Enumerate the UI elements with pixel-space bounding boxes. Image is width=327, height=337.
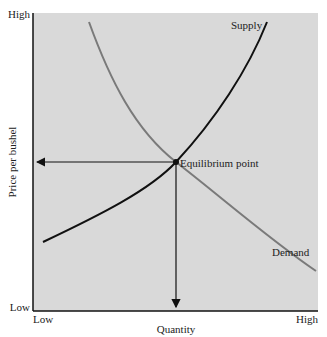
demand-label: Demand bbox=[272, 246, 310, 258]
y-axis-title: Price per bushel bbox=[6, 127, 18, 198]
supply-label: Supply bbox=[231, 19, 263, 31]
y-high-label: High bbox=[8, 8, 31, 20]
equilibrium-point-marker bbox=[173, 159, 179, 165]
y-low-label: Low bbox=[10, 301, 30, 313]
equilibrium-label: Equilibrium point bbox=[180, 157, 259, 169]
x-high-label: High bbox=[296, 313, 319, 325]
x-low-label: Low bbox=[33, 313, 53, 325]
x-axis-title: Quantity bbox=[157, 323, 196, 335]
supply-demand-chart: High Low Low High Quantity Price per bus… bbox=[0, 0, 327, 337]
